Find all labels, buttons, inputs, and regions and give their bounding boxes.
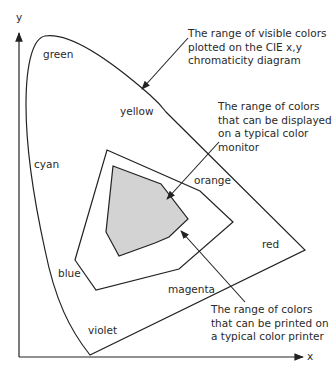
visible-annotation-arrow [142,38,188,89]
label-magenta: magenta [168,283,215,296]
label-yellow: yellow [120,105,154,118]
label-red: red [262,238,279,251]
monitor-gamut-annotation: The range of colors that can be displaye… [218,100,332,154]
x-axis-label: x [307,350,313,363]
label-cyan: cyan [34,158,59,171]
label-green: green [43,48,73,61]
y-axis-label: y [16,11,22,24]
label-blue: blue [58,267,81,280]
printer-gamut-fill [106,166,188,256]
visible-gamut-annotation: The range of visible colors plotted on t… [188,27,326,68]
monitor-annotation-arrow [167,142,219,199]
printer-gamut-annotation: The range of colors that can be printed … [211,303,329,344]
label-violet: violet [88,324,117,337]
label-orange: orange [194,174,231,187]
